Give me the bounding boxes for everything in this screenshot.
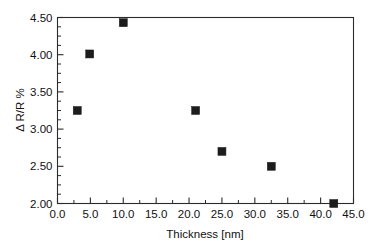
x-tick-label: 35.0	[277, 208, 299, 220]
y-tick-label: 4.00	[30, 49, 52, 61]
data-point-series	[73, 19, 338, 208]
chart-figure: 0.05.010.015.020.025.030.035.040.045.0 2…	[0, 0, 374, 246]
y-tick-label: 4.50	[30, 12, 52, 24]
x-tick-label: 40.0	[309, 208, 331, 220]
y-tick-label: 3.50	[30, 86, 52, 98]
scatter-plot: 0.05.010.015.020.025.030.035.040.045.0 2…	[0, 0, 374, 246]
data-point	[192, 107, 200, 115]
y-tick-label: 2.50	[30, 160, 52, 172]
data-point	[267, 162, 275, 170]
data-point	[330, 200, 338, 208]
data-point	[119, 19, 127, 27]
y-axis-title: Δ R/R %	[14, 88, 26, 131]
x-tick-label: 25.0	[211, 208, 233, 220]
y-axis-tick-labels: 2.002.503.003.504.004.50	[30, 12, 52, 210]
x-tick-label: 10.0	[112, 208, 134, 220]
y-tick-label: 3.00	[30, 123, 52, 135]
x-tick-label: 20.0	[178, 208, 200, 220]
y-tick-label: 2.00	[30, 198, 52, 210]
x-axis-tick-labels: 0.05.010.015.020.025.030.035.040.045.0	[50, 208, 365, 220]
plot-frame	[58, 18, 354, 204]
x-tick-label: 5.0	[82, 208, 98, 220]
x-tick-label: 15.0	[145, 208, 167, 220]
x-axis-title: Thickness [nm]	[166, 228, 243, 240]
data-point	[218, 147, 226, 155]
data-point	[73, 107, 81, 115]
x-tick-label: 30.0	[244, 208, 266, 220]
data-point	[86, 50, 94, 58]
x-tick-label: 45.0	[342, 208, 364, 220]
